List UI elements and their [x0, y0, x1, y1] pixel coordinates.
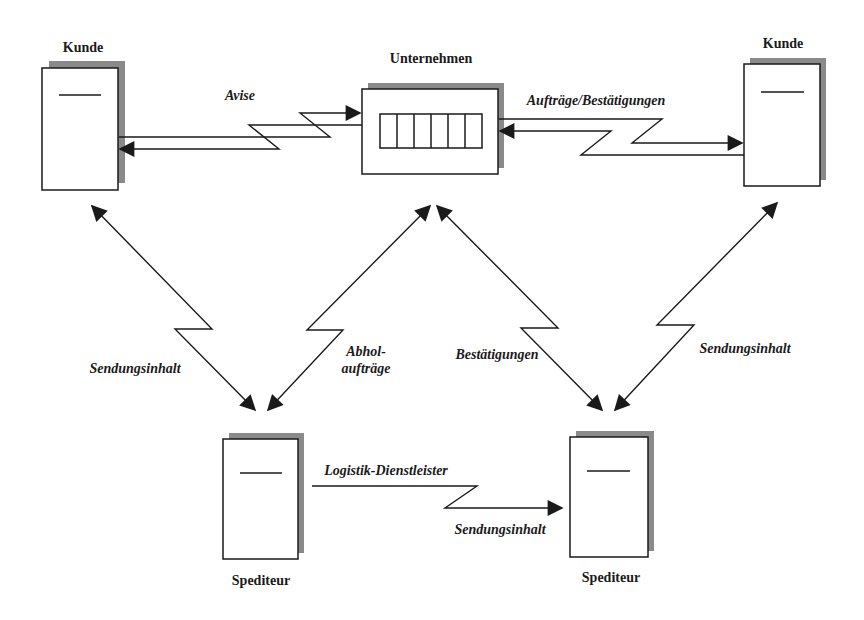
label-kunde-right: Kunde — [763, 36, 803, 51]
label-spediteur-left: Spediteur — [232, 573, 290, 588]
label-abhol-1: Abhol- — [345, 344, 386, 359]
label-kunde-left: Kunde — [63, 40, 103, 55]
edge-kunde-left-spediteur: Sendungsinhalt — [89, 206, 255, 410]
label-spediteur-right: Spediteur — [582, 570, 640, 585]
label-bestaetigungen: Bestätigungen — [454, 347, 538, 362]
edge-abholauftraege: Abhol- aufträge — [268, 206, 430, 410]
label-sendungsinhalt-left: Sendungsinhalt — [89, 361, 181, 376]
node-unternehmen: Unternehmen — [362, 51, 504, 174]
edge-kunde-right-spediteur: Sendungsinhalt — [615, 203, 792, 410]
label-auftraege: Aufträge/Bestätigungen — [526, 93, 666, 108]
node-kunde-left: Kunde — [42, 40, 125, 190]
label-avise: Avise — [224, 88, 255, 103]
node-kunde-right: Kunde — [744, 36, 826, 186]
label-sendungsinhalt-bottom: Sendungsinhalt — [454, 522, 546, 537]
edge-auftraege: Aufträge/Bestätigungen — [499, 93, 744, 155]
label-unternehmen: Unternehmen — [390, 51, 473, 66]
node-spediteur-right: Spediteur — [570, 431, 654, 585]
label-logistik: Logistik-Dienstleister — [323, 463, 448, 478]
edge-bestaetigungen: Bestätigungen — [437, 206, 602, 410]
node-spediteur-left: Spediteur — [223, 433, 304, 588]
edge-logistik: Logistik-Dienstleister Sendungsinhalt — [312, 463, 562, 537]
diagram-canvas: Kunde Unternehmen Kunde Spediteur Spedit… — [0, 0, 864, 620]
edge-avise: Avise — [119, 88, 362, 149]
label-abhol-2: aufträge — [342, 361, 391, 376]
label-sendungsinhalt-right: Sendungsinhalt — [699, 341, 791, 356]
